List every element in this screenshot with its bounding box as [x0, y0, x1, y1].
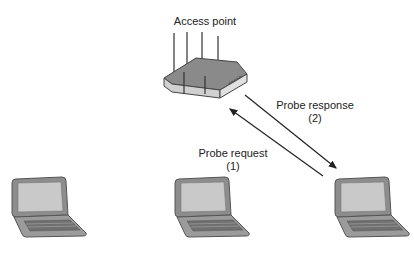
- probe-response-step: (2): [272, 112, 358, 125]
- probe-response-label: Probe response (2): [272, 99, 358, 125]
- diagram-canvas: [0, 0, 414, 258]
- laptop-icon-left: [12, 177, 86, 237]
- probe-response-text: Probe response: [272, 99, 358, 112]
- laptop-icon-right: [335, 177, 409, 237]
- probe-request-step: (1): [193, 160, 273, 173]
- probe-request-label: Probe request (1): [193, 147, 273, 173]
- probe-request-text: Probe request: [193, 147, 273, 160]
- access-point-label: Access point: [170, 15, 240, 28]
- laptop-icon-center: [175, 177, 249, 237]
- wireless-router-icon: [164, 32, 247, 98]
